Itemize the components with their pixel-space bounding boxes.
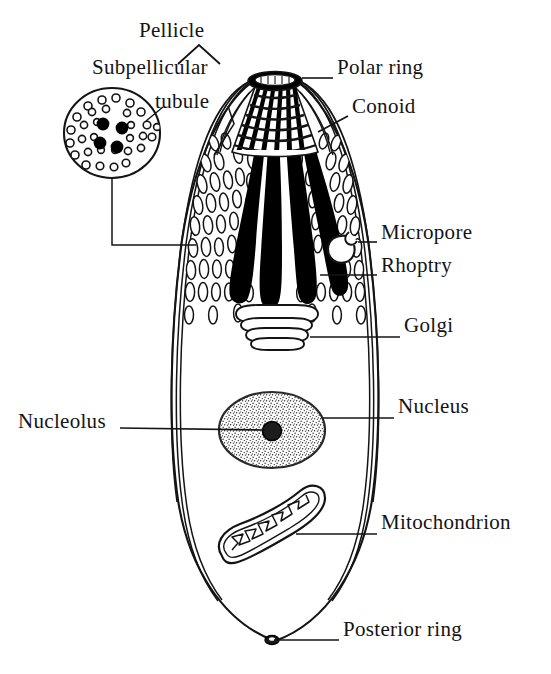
golgi-cisterna-4 [251,338,304,350]
label-golgi: Golgi [404,315,453,336]
polar-ring-ellipse [248,72,302,91]
label-micropore: Micropore [381,222,472,243]
label-tubule: tubule [155,91,209,112]
cross-section-inset [58,88,161,178]
label-posterior-ring: Posterior ring [343,619,462,640]
label-subpellicular: Subpellicular [92,57,208,78]
label-pellicle: Pellicle [139,20,204,41]
label-conoid: Conoid [352,96,416,117]
label-nucleolus: Nucleolus [18,411,106,432]
label-polar-ring: Polar ring [337,57,423,78]
label-rhoptry: Rhoptry [381,255,452,276]
nucleolus-dot [263,422,282,441]
label-mitochondrion: Mitochondrion [381,512,511,533]
apicomplexan-diagram [0,0,551,674]
label-nucleus: Nucleus [398,396,469,417]
